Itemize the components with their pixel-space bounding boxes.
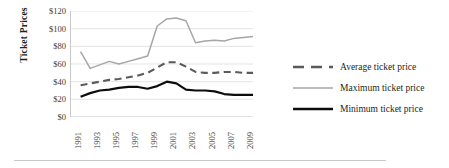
bold-line-swatch [292, 103, 334, 115]
y-axis-tick-label: $100 [30, 25, 66, 34]
x-axis-tick-label: 1993 [93, 132, 102, 149]
x-axis-tick-labels: 1991199319951997199920012003200520072009 [70, 119, 252, 159]
x-axis-tick-label: 2003 [188, 132, 197, 149]
x-axis-tick-label: 1999 [150, 132, 159, 149]
x-axis-tick-label: 1991 [74, 132, 83, 149]
series-line-minimum-ticket-price [81, 82, 253, 97]
y-axis-tick-label: $0 [30, 113, 66, 122]
y-axis-tick-label: $40 [30, 78, 66, 87]
x-axis-tick-label: 2007 [227, 132, 236, 149]
series-line-maximum-ticket-price [81, 18, 253, 68]
x-axis-tick-label: 2005 [208, 132, 217, 149]
x-axis-tick-label: 1997 [131, 132, 140, 149]
x-axis-tick-label: 1995 [112, 132, 121, 149]
y-axis-title: Ticket Prices [19, 0, 29, 83]
y-axis-tick-label: $120 [30, 7, 66, 16]
data-series [81, 18, 253, 97]
y-axis-tick-label: $60 [30, 60, 66, 69]
y-axis-tick-label: $80 [30, 42, 66, 51]
dashed-line-swatch [292, 61, 334, 73]
y-axis-tick-label: $20 [30, 95, 66, 104]
legend-item-average: Average ticket price [292, 56, 447, 77]
x-axis-tick-label: 2001 [169, 132, 178, 149]
y-axis-tick-labels: $120$100$80$60$40$20$0 [30, 0, 66, 168]
x-axis-tick-label: 2009 [246, 132, 255, 149]
legend-item-maximum: Maximum ticket price [292, 77, 447, 98]
bottom-divider [14, 160, 386, 161]
legend-label-minimum: Minimum ticket price [334, 104, 423, 114]
legend-label-average: Average ticket price [334, 62, 416, 72]
plot-area [70, 11, 252, 117]
legend-item-minimum: Minimum ticket price [292, 98, 447, 119]
chart-figure: Ticket Prices $120$100$80$60$40$20$0 199… [0, 0, 449, 168]
legend-label-maximum: Maximum ticket price [334, 83, 424, 93]
plot-svg [71, 11, 253, 117]
chart-legend: Average ticket price Maximum ticket pric… [292, 56, 447, 119]
light-line-swatch [292, 82, 334, 94]
